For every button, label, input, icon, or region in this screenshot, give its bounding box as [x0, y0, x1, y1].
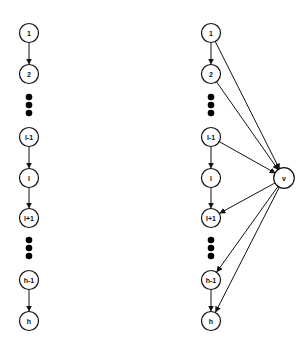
node-label: h — [27, 318, 31, 325]
ellipsis-dot — [26, 102, 33, 109]
node-1: 1 — [202, 24, 221, 43]
node-2: 2 — [202, 65, 221, 84]
node-lminus1: l-1 — [20, 128, 39, 147]
node-l: l — [20, 169, 39, 188]
node-label: l-1 — [207, 134, 215, 141]
node-1: 1 — [20, 24, 39, 43]
node-label: l — [210, 175, 212, 182]
node-label: l-1 — [25, 134, 33, 141]
node-label: 1 — [27, 30, 31, 37]
ellipsis-dot — [26, 110, 33, 117]
ellipsis-dot — [26, 94, 33, 101]
node-lminus1: l-1 — [202, 128, 221, 147]
ellipsis-dot — [208, 102, 215, 109]
node-2: 2 — [20, 65, 39, 84]
ellipsis-dot — [208, 94, 215, 101]
ellipsis-dot — [208, 237, 215, 244]
right-graph-with-vertex-v: 12l-1ll+1h-1hv — [202, 24, 295, 331]
node-label: h-1 — [206, 277, 217, 284]
node-l: l — [202, 169, 221, 188]
left-path-graph: 12l-1ll+1h-1h — [20, 24, 39, 331]
node-label: l+1 — [206, 215, 216, 222]
node-label: h — [209, 318, 213, 325]
ellipsis-dot — [26, 253, 33, 260]
edge-1-to-v — [215, 41, 279, 169]
node-lplus1: l+1 — [20, 209, 39, 228]
edge-v-to-h — [215, 186, 279, 312]
node-label: v — [282, 175, 286, 182]
edge-lminus1-to-v — [219, 142, 275, 174]
node-hminus1: h-1 — [202, 271, 221, 290]
ellipsis-dot — [208, 245, 215, 252]
node-label: h-1 — [24, 277, 35, 284]
node-label: 2 — [209, 71, 213, 78]
node-lplus1: l+1 — [202, 209, 221, 228]
node-v: v — [274, 168, 295, 189]
ellipsis-dot — [208, 253, 215, 260]
node-label: 1 — [209, 30, 213, 37]
edge-v-to-lplus1 — [219, 183, 275, 214]
node-label: l+1 — [24, 215, 34, 222]
node-label: l — [28, 175, 30, 182]
node-label: 2 — [27, 71, 31, 78]
ellipsis-dot — [208, 110, 215, 117]
node-h: h — [20, 312, 39, 331]
node-h: h — [202, 312, 221, 331]
ellipsis-dot — [26, 237, 33, 244]
graph-diagram: 12l-1ll+1h-1h 12l-1ll+1h-1hv — [0, 0, 306, 348]
node-hminus1: h-1 — [20, 271, 39, 290]
ellipsis-dot — [26, 245, 33, 252]
edge-v-to-hminus1 — [217, 186, 279, 273]
